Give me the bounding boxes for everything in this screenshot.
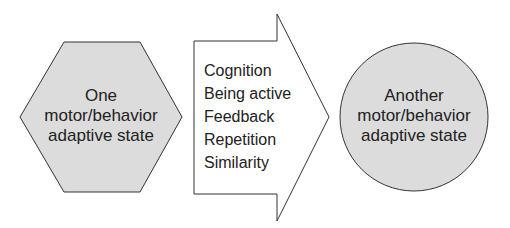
factor-feedback: Feedback [204,108,275,125]
start-state-line-1: One [85,86,117,105]
end-state-line-1: Another [384,86,444,105]
factor-similarity: Similarity [204,154,269,171]
end-state-node: Another motor/behavior adaptive state [340,43,488,191]
start-state-line-2: motor/behavior [44,106,158,125]
factor-cognition: Cognition [204,62,272,79]
factor-repetition: Repetition [204,131,276,148]
factor-being-active: Being active [204,85,291,102]
start-state-line-3: adaptive state [48,126,154,145]
adaptation-diagram: One motor/behavior adaptive state Cognit… [0,0,510,228]
start-state-node: One motor/behavior adaptive state [20,42,182,192]
end-state-line-3: adaptive state [361,126,467,145]
end-state-line-2: motor/behavior [357,106,471,125]
transition-arrow: Cognition Being active Feedback Repetiti… [194,14,329,221]
